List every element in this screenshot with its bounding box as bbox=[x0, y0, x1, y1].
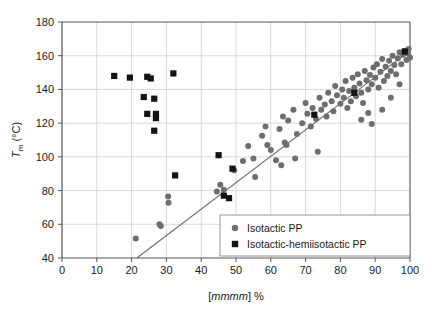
x-tick-label: 10 bbox=[91, 264, 103, 276]
data-point bbox=[229, 166, 235, 172]
y-tick-label: 140 bbox=[36, 83, 54, 95]
data-point bbox=[259, 133, 265, 139]
data-point bbox=[217, 182, 223, 188]
data-point bbox=[318, 107, 324, 113]
legend-marker-square-icon bbox=[232, 241, 238, 247]
x-tick-label: 0 bbox=[59, 264, 65, 276]
data-point bbox=[151, 128, 157, 134]
data-point bbox=[317, 95, 323, 101]
data-point bbox=[388, 68, 394, 74]
data-point bbox=[216, 152, 222, 158]
data-point bbox=[367, 72, 373, 78]
x-tick-label: 90 bbox=[369, 264, 381, 276]
y-tick-label: 60 bbox=[42, 218, 54, 230]
data-point bbox=[308, 124, 314, 130]
data-point bbox=[362, 68, 368, 74]
data-point bbox=[379, 107, 385, 113]
data-point bbox=[360, 100, 366, 106]
data-point bbox=[346, 88, 352, 94]
data-point bbox=[311, 112, 317, 118]
data-point bbox=[402, 48, 408, 54]
data-point bbox=[334, 92, 340, 98]
data-point bbox=[273, 157, 279, 163]
data-point bbox=[283, 142, 289, 148]
data-point bbox=[379, 56, 385, 62]
y-tick-label: 180 bbox=[36, 16, 54, 28]
data-point bbox=[170, 70, 176, 76]
data-point bbox=[344, 105, 350, 111]
x-axis-ticks: 0102030405060708090100 bbox=[59, 258, 419, 276]
x-tick-label: 20 bbox=[125, 264, 137, 276]
data-point bbox=[358, 117, 364, 123]
data-point bbox=[351, 90, 357, 96]
data-point bbox=[377, 69, 383, 75]
legend-label: Isotactic-hemiisotactic PP bbox=[247, 238, 367, 250]
data-point bbox=[407, 54, 413, 60]
data-point bbox=[303, 100, 309, 106]
x-tick-label: 80 bbox=[334, 264, 346, 276]
x-tick-label: 30 bbox=[160, 264, 172, 276]
y-axis-title: Tm (°C) bbox=[10, 122, 25, 158]
data-point bbox=[148, 75, 154, 81]
data-point bbox=[386, 58, 392, 64]
data-point bbox=[153, 115, 159, 121]
data-point bbox=[358, 90, 364, 96]
data-point bbox=[365, 86, 371, 92]
x-axis-title: [mmmm] % bbox=[208, 290, 264, 302]
y-tick-label: 120 bbox=[36, 117, 54, 129]
x-tick-label: 70 bbox=[299, 264, 311, 276]
data-point bbox=[397, 81, 403, 87]
data-point bbox=[252, 174, 258, 180]
data-point bbox=[278, 162, 284, 168]
data-point bbox=[329, 98, 335, 104]
data-point bbox=[277, 126, 283, 132]
data-point bbox=[390, 53, 396, 59]
chart-canvas: 0102030405060708090100 40608010012014016… bbox=[0, 0, 432, 317]
data-point bbox=[330, 108, 336, 114]
data-point bbox=[388, 95, 394, 101]
data-point bbox=[343, 78, 349, 84]
data-point bbox=[292, 156, 298, 162]
data-point bbox=[322, 102, 328, 108]
data-point bbox=[285, 118, 291, 124]
data-point bbox=[323, 113, 329, 119]
data-point bbox=[250, 156, 256, 162]
data-point bbox=[357, 81, 363, 87]
data-point bbox=[374, 61, 380, 67]
chart-legend: Isotactic PPIsotactic-hemiisotactic PP bbox=[220, 215, 410, 256]
data-point bbox=[391, 62, 397, 68]
data-point bbox=[372, 75, 378, 81]
data-point bbox=[384, 73, 390, 79]
data-point bbox=[393, 71, 399, 77]
data-point bbox=[381, 78, 387, 84]
y-tick-label: 100 bbox=[36, 151, 54, 163]
legend-label: Isotactic PP bbox=[247, 222, 302, 234]
data-point bbox=[165, 200, 171, 206]
data-point bbox=[158, 223, 164, 229]
data-point bbox=[348, 98, 354, 104]
data-point bbox=[310, 105, 316, 111]
data-point bbox=[245, 143, 251, 149]
data-point bbox=[294, 131, 300, 137]
data-point bbox=[264, 142, 270, 148]
data-point bbox=[341, 95, 347, 101]
data-point bbox=[350, 75, 356, 81]
data-point bbox=[141, 94, 147, 100]
data-point bbox=[221, 187, 227, 193]
legend-marker-circle-icon bbox=[232, 225, 238, 231]
data-point bbox=[364, 77, 370, 83]
data-point bbox=[214, 188, 220, 194]
x-tick-label: 100 bbox=[401, 264, 419, 276]
y-tick-label: 160 bbox=[36, 50, 54, 62]
data-point bbox=[133, 236, 139, 242]
x-tick-label: 50 bbox=[230, 264, 242, 276]
scatter-chart: 0102030405060708090100 40608010012014016… bbox=[0, 0, 432, 317]
data-point bbox=[304, 111, 310, 117]
data-point bbox=[290, 107, 296, 113]
data-point bbox=[315, 149, 321, 155]
y-tick-label: 80 bbox=[42, 185, 54, 197]
data-point bbox=[339, 86, 345, 92]
data-point bbox=[111, 73, 117, 79]
data-point bbox=[165, 193, 171, 199]
data-point bbox=[325, 90, 331, 96]
